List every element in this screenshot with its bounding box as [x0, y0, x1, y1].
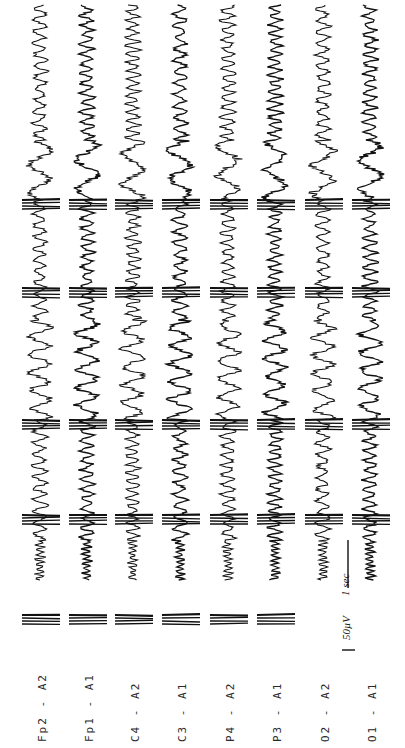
- spike-discharge: [305, 429, 343, 430]
- spike-discharge: [257, 290, 295, 291]
- spike-discharge: [115, 623, 153, 624]
- spike-discharge: [22, 199, 60, 200]
- spike-discharge: [22, 515, 60, 516]
- spike-discharge: [115, 200, 153, 201]
- spike-discharge: [257, 523, 295, 524]
- spike-discharge: [210, 615, 248, 616]
- eeg-trace: [308, 5, 337, 580]
- spike-discharge: [257, 200, 295, 201]
- spike-discharge: [210, 617, 248, 618]
- spike-discharge: [115, 208, 153, 209]
- spike-discharge: [115, 420, 153, 421]
- eeg-trace: [214, 5, 242, 580]
- channel-label-o2-a2: O2 - A2: [319, 682, 332, 742]
- scale-time-label: 1 sec: [339, 574, 351, 596]
- channel-label-p4-a2: P4 - A2: [224, 682, 237, 742]
- spike-discharge: [22, 423, 60, 424]
- spike-discharge: [210, 521, 248, 522]
- spike-discharge: [162, 518, 200, 519]
- spike-discharge: [115, 203, 153, 204]
- spike-discharge: [257, 419, 295, 420]
- spike-discharge: [352, 293, 390, 294]
- spike-discharge: [162, 624, 200, 625]
- spike-discharge: [352, 419, 390, 420]
- channel-label-c3-a1: C3 - A1: [176, 682, 189, 742]
- spike-discharge: [115, 618, 153, 619]
- spike-discharge: [162, 202, 200, 203]
- spike-discharge: [257, 614, 295, 615]
- spike-discharge: [162, 523, 200, 524]
- spike-discharge: [210, 514, 248, 515]
- spike-discharge: [210, 294, 248, 295]
- spike-discharge: [352, 205, 390, 206]
- spike-discharge: [22, 208, 60, 209]
- eeg-trace: [261, 5, 288, 580]
- spike-discharge: [305, 419, 343, 420]
- spike-discharge: [69, 203, 107, 204]
- spike-discharge: [69, 288, 107, 289]
- spike-discharge: [22, 618, 60, 619]
- eeg-trace: [26, 5, 53, 580]
- spike-discharge: [162, 521, 200, 522]
- spike-discharge: [305, 297, 343, 298]
- spike-discharge: [69, 428, 107, 429]
- spike-discharge: [257, 209, 295, 210]
- spike-discharge: [352, 290, 390, 291]
- spike-discharge: [352, 208, 390, 209]
- eeg-figure: Fp2 - A2 Fp1 - A1 C4 - A2 C3 - A1 P4 - A…: [0, 0, 405, 748]
- spike-discharge: [22, 297, 60, 298]
- eeg-trace: [73, 5, 101, 580]
- spike-discharge: [115, 422, 153, 423]
- spike-discharge: [352, 288, 390, 289]
- spike-discharge: [210, 623, 248, 624]
- spike-discharge: [22, 288, 60, 289]
- spike-discharge: [22, 520, 60, 521]
- spike-discharge: [22, 517, 60, 518]
- spike-discharge: [162, 296, 200, 297]
- spike-discharge: [69, 520, 107, 521]
- spike-discharge: [257, 514, 295, 515]
- spike-discharge: [115, 293, 153, 294]
- channel-label-p3-a1: P3 - A1: [271, 682, 284, 742]
- spike-discharge: [162, 614, 200, 615]
- spike-discharge: [352, 425, 390, 426]
- spike-discharge: [352, 518, 390, 519]
- channel-label-o1-a1: O1 - A1: [366, 682, 379, 742]
- spike-discharge: [115, 620, 153, 621]
- eeg-trace: [119, 5, 147, 580]
- spike-discharge: [162, 287, 200, 288]
- spike-discharge: [115, 296, 153, 297]
- channel-label-fp2-a2: Fp2 - A2: [36, 673, 49, 742]
- eeg-trace: [357, 5, 384, 580]
- spike-discharge: [22, 202, 60, 203]
- spike-discharge: [257, 293, 295, 294]
- scale-amplitude-label: 50µV: [340, 616, 352, 640]
- spike-discharge: [162, 423, 200, 424]
- spike-discharge: [257, 426, 295, 427]
- spike-discharge: [115, 523, 153, 524]
- spike-discharge: [22, 206, 60, 207]
- spike-discharge: [305, 293, 343, 294]
- spike-discharge: [210, 429, 248, 430]
- channel-label-fp1-a1: Fp1 - A1: [83, 673, 96, 742]
- spike-discharge: [352, 203, 390, 204]
- channel-label-c4-a2: C4 - A2: [129, 682, 142, 742]
- spike-discharge: [162, 208, 200, 209]
- spike-discharge: [162, 205, 200, 206]
- eeg-trace: [166, 5, 194, 580]
- spike-discharge: [352, 296, 390, 297]
- spike-discharge: [115, 615, 153, 616]
- spike-discharge: [162, 621, 200, 622]
- spike-discharge: [305, 426, 343, 427]
- spike-discharge: [162, 420, 200, 421]
- spike-discharge: [305, 199, 343, 200]
- spike-discharge: [22, 420, 60, 421]
- spike-discharge: [22, 428, 60, 429]
- spike-discharge: [257, 423, 295, 424]
